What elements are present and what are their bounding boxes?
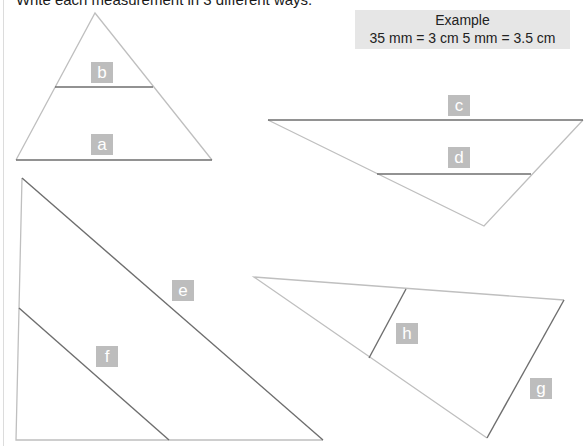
measure-line-g: [487, 300, 564, 438]
triangle-ab: [16, 13, 212, 160]
label-e: e: [172, 280, 194, 301]
label-a: a: [91, 134, 113, 155]
label-f: f: [96, 346, 118, 367]
measure-line-e: [22, 178, 323, 440]
label-g: g: [530, 378, 552, 399]
label-d: d: [448, 147, 470, 168]
measure-line-f: [19, 308, 169, 440]
figures-canvas: [0, 0, 586, 446]
label-h: h: [396, 323, 418, 344]
triangle-ef: [16, 178, 323, 440]
triangle-cd: [268, 120, 583, 226]
label-b: b: [91, 62, 113, 83]
label-c: c: [448, 95, 470, 116]
triangle-gh: [254, 277, 564, 438]
